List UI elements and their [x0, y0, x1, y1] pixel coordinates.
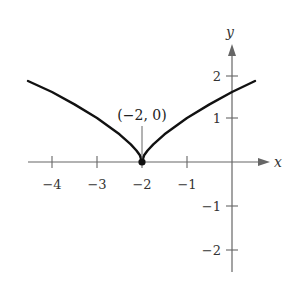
graph: x y −4 −3 −2 −1 2 1 −1 −2 (−2, 0)	[0, 0, 291, 296]
y-axis-label: y	[225, 24, 235, 40]
x-tick-label: −4	[42, 177, 61, 192]
y-tick-label: −1	[202, 199, 221, 214]
x-axis-label: x	[274, 154, 282, 170]
y-axis-arrow-icon	[228, 44, 236, 56]
cusp-point	[138, 158, 145, 165]
x-tick-label: −3	[87, 177, 106, 192]
x-tick-label: −2	[132, 177, 151, 192]
cusp-point-label: (−2, 0)	[117, 107, 166, 123]
x-tick-label: −1	[177, 177, 196, 192]
y-tick-label: 2	[213, 69, 221, 84]
y-tick-label: 1	[213, 111, 221, 126]
y-tick-label: −2	[202, 243, 221, 258]
x-axis-arrow-icon	[258, 158, 270, 166]
